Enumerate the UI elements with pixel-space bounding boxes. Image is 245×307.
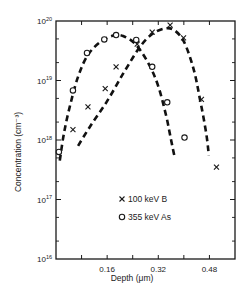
x-marker-glyph bbox=[120, 197, 125, 202]
arsenic-data-point bbox=[70, 88, 75, 93]
arsenic-data-point bbox=[165, 100, 170, 105]
arsenic-data-point bbox=[84, 50, 89, 55]
boron-data-point bbox=[103, 86, 108, 91]
arsenic-data-point bbox=[134, 37, 139, 42]
boron-data-point bbox=[85, 104, 90, 109]
arsenic-fit-curve bbox=[60, 35, 175, 161]
y-tick-label: 1020 bbox=[37, 16, 52, 27]
legend-item-arsenic: 355 keV As bbox=[119, 212, 171, 222]
legend-label-boron: 100 keV B bbox=[128, 194, 168, 204]
arsenic-data-point bbox=[182, 135, 187, 140]
boron-data-point bbox=[114, 64, 119, 69]
y-tick-label: 1018 bbox=[37, 135, 52, 146]
boron-data-point bbox=[168, 23, 173, 28]
y-tick-label: 1019 bbox=[37, 75, 52, 86]
data-markers bbox=[56, 23, 219, 170]
legend: 100 keV B 355 keV As bbox=[119, 194, 171, 222]
y-tick-label: 1017 bbox=[37, 194, 52, 205]
circle-marker-glyph bbox=[119, 214, 124, 219]
y-axis-title: Concentration (cm⁻³) bbox=[13, 112, 23, 192]
legend-label-arsenic: 355 keV As bbox=[128, 212, 171, 222]
y-axis-ticks: 10201019101810171016 bbox=[37, 16, 235, 265]
x-tick-label: 0.48 bbox=[202, 265, 218, 274]
y-tick-label: 1016 bbox=[37, 254, 52, 265]
x-axis-ticks: 0.160.320.48 bbox=[82, 21, 218, 274]
arsenic-data-point bbox=[113, 32, 118, 37]
legend-item-boron: 100 keV B bbox=[120, 194, 168, 204]
arsenic-data-point bbox=[102, 37, 107, 42]
boron-data-point bbox=[214, 165, 219, 170]
fit-curves bbox=[60, 28, 209, 160]
arsenic-data-point bbox=[56, 149, 61, 154]
concentration-depth-chart: 10201019101810171016 0.160.320.48 100 ke… bbox=[0, 0, 245, 307]
x-axis-title: Depth (μm) bbox=[111, 273, 154, 283]
x-marker-icon bbox=[120, 197, 125, 202]
boron-data-point bbox=[70, 127, 75, 132]
arsenic-data-point bbox=[150, 64, 155, 69]
boron-fit-curve bbox=[78, 28, 209, 155]
circle-marker-icon bbox=[119, 214, 124, 219]
